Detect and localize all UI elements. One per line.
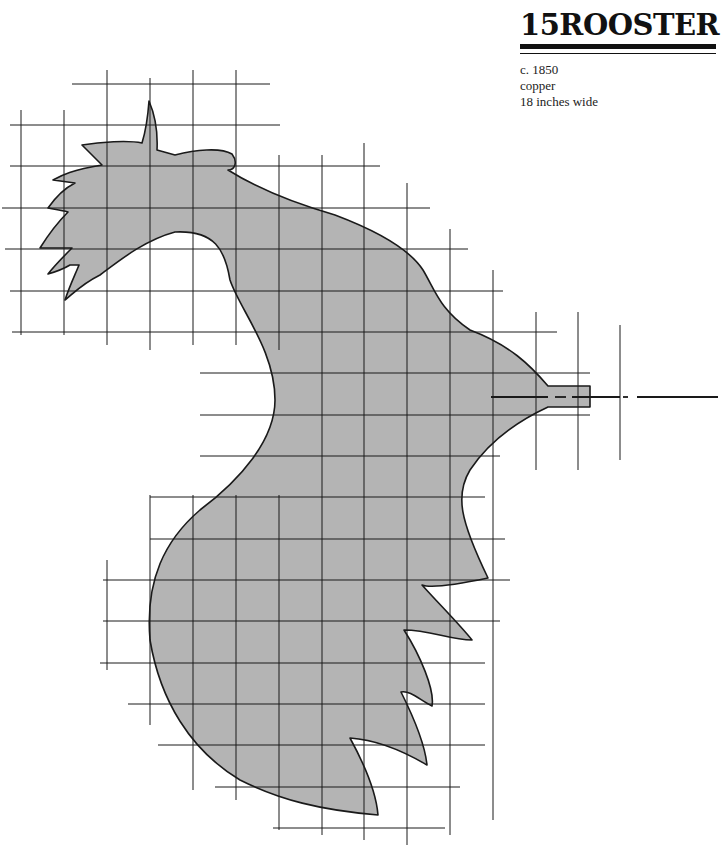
plate-title: ROOSTER	[559, 8, 719, 42]
plate-details: c. 1850 copper 18 inches wide	[520, 62, 716, 110]
plate-header: 15 ROOSTER c. 1850 copper 18 inches wide	[520, 8, 716, 110]
detail-material: copper	[520, 78, 716, 94]
title-rule-thick	[520, 44, 716, 49]
detail-size: 18 inches wide	[520, 94, 716, 110]
detail-date: c. 1850	[520, 62, 716, 78]
rooster-pattern-canvas	[0, 0, 721, 853]
title-row: 15 ROOSTER	[520, 8, 716, 42]
title-rule-thin	[520, 53, 716, 54]
plate-number: 15	[520, 8, 559, 42]
